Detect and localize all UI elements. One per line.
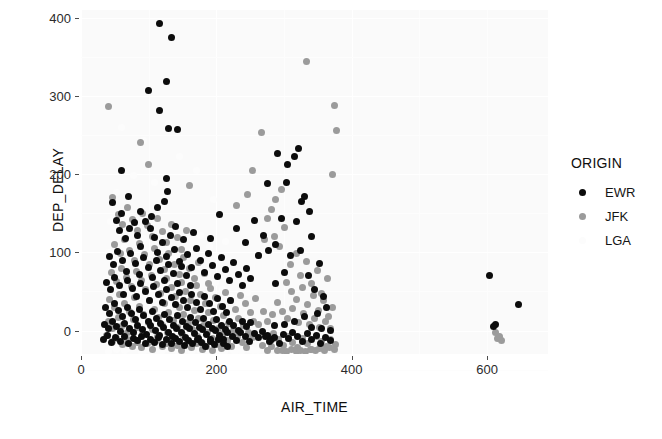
data-point-ewr (184, 251, 191, 258)
data-point-ewr (295, 145, 302, 152)
data-point-ewr (142, 288, 149, 295)
data-point-ewr (123, 268, 130, 275)
legend-dot-icon (579, 213, 586, 220)
data-point-ewr (145, 87, 152, 94)
data-point-ewr (314, 310, 321, 317)
data-point-ewr (308, 233, 315, 240)
data-point-ewr (298, 198, 305, 205)
y-tick-mark (75, 96, 79, 97)
data-point-ewr (163, 175, 170, 182)
data-point-ewr (306, 208, 313, 215)
data-point-ewr (235, 271, 242, 278)
data-point-ewr (311, 286, 318, 293)
data-point-ewr (291, 318, 298, 325)
legend-label: JFK (605, 209, 628, 224)
legend: ORIGIN EWRJFKLGA (571, 155, 657, 252)
data-point-ewr (155, 334, 162, 341)
data-point-ewr (272, 280, 279, 287)
data-point-ewr (133, 293, 140, 300)
data-point-ewr (316, 260, 323, 267)
data-point-ewr (327, 337, 334, 344)
data-point-ewr (176, 289, 183, 296)
data-point-ewr (318, 325, 325, 332)
data-point-ewr (147, 225, 154, 232)
data-point-ewr (293, 218, 300, 225)
data-point-jfk (259, 342, 266, 349)
legend-dot-icon (579, 189, 586, 196)
x-tick-label: 0 (77, 362, 84, 377)
data-point-ewr (327, 327, 334, 334)
y-tick-mark (75, 174, 79, 175)
data-point-ewr (301, 313, 308, 320)
data-point-jfk (268, 206, 275, 213)
data-point-ewr (264, 180, 271, 187)
data-point-lga (193, 167, 200, 174)
data-point-jfk (249, 167, 256, 174)
data-point-ewr (151, 234, 158, 241)
data-point-jfk (288, 288, 295, 295)
legend-label: LGA (605, 233, 631, 248)
data-point-lga (244, 289, 251, 296)
data-point-ewr (155, 291, 162, 298)
data-point-jfk (186, 182, 193, 189)
y-tick-label: 300 (31, 89, 71, 104)
data-point-ewr (187, 282, 194, 289)
data-point-ewr (146, 297, 153, 304)
data-point-lga (151, 179, 158, 186)
data-point-jfk (247, 309, 254, 316)
data-point-ewr (201, 293, 208, 300)
data-point-ewr (247, 275, 254, 282)
data-point-ewr (107, 286, 114, 293)
data-point-ewr (190, 229, 197, 236)
data-point-ewr (305, 272, 312, 279)
data-point-ewr (159, 299, 166, 306)
data-point-ewr (247, 319, 254, 326)
data-point-jfk (331, 102, 338, 109)
x-tick-mark (81, 356, 82, 360)
data-point-jfk (154, 215, 161, 222)
x-tick-mark (487, 356, 488, 360)
data-point-ewr (163, 286, 170, 293)
data-point-ewr (113, 217, 120, 224)
data-point-ewr (104, 332, 111, 339)
data-point-ewr (271, 322, 278, 329)
data-point-ewr (171, 246, 178, 253)
data-point-jfk (498, 337, 505, 344)
x-tick-label: 200 (206, 362, 228, 377)
data-point-jfk (303, 258, 310, 265)
data-point-jfk (244, 191, 251, 198)
legend-item-ewr[interactable]: EWR (571, 180, 657, 204)
data-point-ewr (242, 239, 249, 246)
data-point-jfk (105, 103, 112, 110)
data-point-jfk (183, 227, 190, 234)
data-point-ewr (136, 271, 143, 278)
data-point-ewr (103, 279, 110, 286)
data-point-ewr (148, 213, 155, 220)
data-point-jfk (297, 272, 304, 279)
data-point-lga (118, 124, 125, 131)
data-point-jfk (258, 129, 265, 136)
data-point-jfk (272, 196, 279, 203)
legend-dot-icon (579, 237, 586, 244)
data-point-jfk (271, 233, 278, 240)
data-point-ewr (137, 243, 144, 250)
data-point-ewr (206, 300, 213, 307)
data-point-lga (176, 153, 183, 160)
data-point-ewr (119, 257, 126, 264)
legend-item-jfk[interactable]: JFK (571, 204, 657, 228)
data-point-ewr (226, 277, 233, 284)
data-point-lga (210, 196, 217, 203)
data-point-jfk (137, 139, 144, 146)
data-point-ewr (255, 252, 262, 259)
data-point-ewr (287, 252, 294, 259)
data-point-lga (121, 347, 128, 354)
y-tick-mark (75, 331, 79, 332)
legend-key-lga (571, 229, 593, 251)
data-point-jfk (260, 308, 267, 315)
x-tick-label: 600 (476, 362, 498, 377)
data-point-lga (105, 348, 112, 354)
data-point-jfk (324, 275, 331, 282)
data-point-ewr (184, 304, 191, 311)
legend-item-lga[interactable]: LGA (571, 228, 657, 252)
data-point-ewr (255, 334, 262, 341)
